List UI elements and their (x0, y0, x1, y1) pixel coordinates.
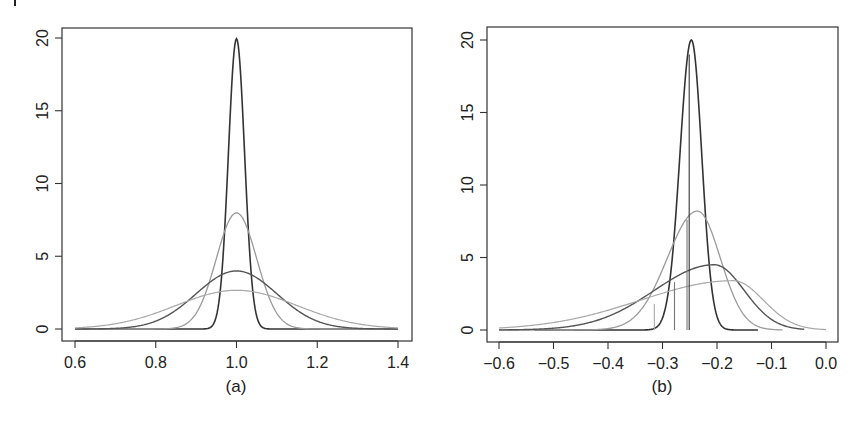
figure: 0.60.81.01.21.4 05101520 (a) −0.6−0.5−0.… (0, 0, 868, 427)
y-tick-label: 5 (459, 253, 476, 262)
x-tick-label: −0.4 (592, 355, 624, 372)
panel-b-frame (487, 27, 838, 342)
x-tick-label: −0.3 (647, 355, 679, 372)
x-tick-label: −0.5 (538, 355, 570, 372)
y-tick-label: 10 (459, 176, 476, 194)
density-curve-3 (499, 265, 804, 330)
x-tick-label: −0.6 (483, 355, 515, 372)
density-curve-1 (534, 40, 757, 330)
panel-b-caption: (b) (652, 377, 673, 396)
panel-b-chart: −0.6−0.5−0.4−0.3−0.2−0.10.0 05101520 (b) (0, 0, 868, 427)
y-tick-label: 15 (459, 104, 476, 122)
panel-b-curves (499, 40, 826, 330)
density-curve-2 (499, 211, 782, 330)
y-tick-label: 20 (459, 31, 476, 49)
y-tick-label: 0 (459, 325, 476, 334)
x-tick-label: 0.0 (815, 355, 837, 372)
x-tick-label: −0.2 (701, 355, 733, 372)
x-tick-label: −0.1 (756, 355, 788, 372)
panel-b-y-axis: 05101520 (459, 31, 487, 334)
panel-b-x-axis: −0.6−0.5−0.4−0.3−0.2−0.10.0 (483, 342, 837, 372)
